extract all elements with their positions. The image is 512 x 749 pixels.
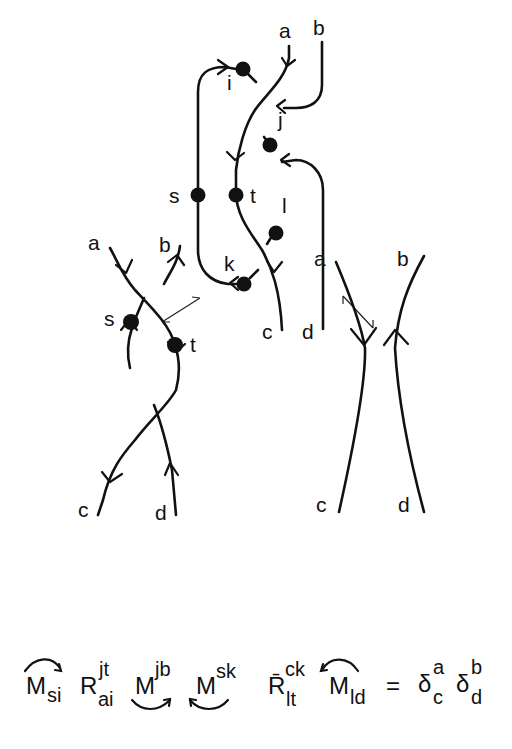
- eq-term-3-symbol: M: [135, 672, 155, 699]
- top-label-d: d: [302, 320, 314, 343]
- left-label-t: t: [190, 333, 196, 356]
- eq-term-4-symbol: M: [196, 672, 216, 699]
- vertex-k: [237, 277, 252, 292]
- arrow-to-c-icon: [267, 261, 282, 272]
- top-label-a: a: [279, 19, 291, 42]
- top-label-j: j: [277, 108, 283, 131]
- eq-term-2-sup: jt: [98, 658, 109, 680]
- eq-term-2-sub: ai: [98, 688, 114, 710]
- left-strand-s: [128, 298, 144, 368]
- eq-term-1-sub: si: [47, 684, 61, 706]
- vertex-j: [263, 138, 278, 153]
- eq-term-5-sub: lt: [286, 688, 296, 710]
- top-label-t: t: [250, 184, 256, 207]
- left-strand-d: [154, 405, 176, 515]
- eq-term-5-sup: ck: [285, 658, 306, 680]
- equation: M si R jt ai M jb M sk R̄ ck lt M ld = δ…: [25, 656, 482, 710]
- top-strand-d-to-l: [282, 160, 323, 329]
- eq-term-3-sup: jb: [154, 658, 171, 680]
- left-diagram: a b c d s t: [78, 231, 196, 524]
- right-strand-d-to-b: [395, 256, 424, 512]
- eq-rhs-2-sup: b: [471, 656, 482, 678]
- right-diagram: a b c d: [314, 247, 424, 516]
- top-label-s: s: [169, 184, 180, 207]
- eq-rhs-1-symbol: δ: [418, 670, 431, 697]
- eq-rhs-2-symbol: δ: [456, 670, 469, 697]
- left-strand-a-to-c: [98, 248, 179, 515]
- left-vertex-s: [123, 314, 139, 330]
- eq-rhs-2-sub: d: [471, 686, 482, 708]
- right-label-a: a: [314, 247, 326, 270]
- eq-term-5-symbol: R̄: [268, 672, 285, 699]
- vertex-i: [236, 62, 251, 77]
- eq-rhs-1-sub: c: [433, 686, 443, 708]
- eq-arc-under-right-icon: [132, 700, 170, 709]
- left-label-d: d: [155, 501, 167, 524]
- right-label-c: c: [316, 493, 327, 516]
- connector-left-arrow-icon: [162, 297, 200, 322]
- vertex-s: [191, 188, 206, 203]
- eq-rhs-1-sup: a: [433, 656, 445, 678]
- right-label-b: b: [397, 247, 409, 270]
- left-label-b: b: [159, 233, 171, 256]
- top-diagram: a b c d i j s t l k: [169, 16, 325, 343]
- left-label-a: a: [88, 231, 100, 254]
- eq-term-1-symbol: M: [26, 672, 46, 699]
- eq-arc-under-left-icon: [190, 700, 228, 709]
- top-label-b: b: [313, 16, 325, 39]
- top-label-c: c: [262, 320, 273, 343]
- top-stub-i: [248, 74, 256, 82]
- eq-term-2-symbol: R: [80, 672, 97, 699]
- top-label-l: l: [282, 194, 287, 217]
- eq-term-4-sup: sk: [216, 660, 237, 682]
- left-vertex-t: [167, 337, 183, 353]
- right-strand-a-to-c: [336, 262, 365, 512]
- top-label-k: k: [224, 252, 235, 275]
- arrow-t-down-icon: [227, 152, 244, 160]
- braid-diagram-figure: a b c d i j s t l k a b: [0, 0, 512, 749]
- vertex-t: [229, 188, 244, 203]
- left-label-c: c: [78, 498, 89, 521]
- right-label-d: d: [398, 493, 410, 516]
- eq-equals: =: [386, 672, 400, 699]
- vertex-l: [269, 226, 284, 241]
- eq-term-6-sub: ld: [350, 686, 366, 708]
- top-label-i: i: [227, 71, 232, 94]
- eq-term-6-symbol: M: [329, 672, 349, 699]
- left-label-s: s: [104, 307, 115, 330]
- top-stub-k: [250, 270, 258, 278]
